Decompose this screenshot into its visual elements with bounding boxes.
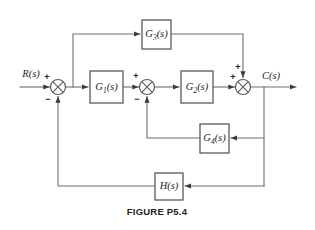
- figure-caption: FIGURE P5.4: [127, 206, 188, 217]
- block-g3[interactable]: G3(s): [142, 20, 171, 49]
- block-g2[interactable]: G2(s): [181, 71, 213, 103]
- output-signal-label: C(s): [262, 70, 281, 82]
- sum3-sign-plus-left: +: [230, 72, 235, 82]
- block-diagram: + − + − + + G1(s): [0, 0, 315, 230]
- block-h[interactable]: H(s): [155, 173, 183, 200]
- block-g4[interactable]: G4(s): [200, 124, 229, 153]
- figure-container: + − + − + + G1(s): [0, 0, 315, 230]
- sum1-sign-minus: −: [45, 94, 50, 104]
- block-g1[interactable]: G1(s): [90, 71, 123, 103]
- block-h-label: H(s): [159, 180, 179, 192]
- input-signal-label: R(s): [21, 68, 40, 80]
- wire-h-to-sum1: [58, 97, 155, 187]
- sum1-sign-plus: +: [44, 72, 49, 82]
- sum2-sign-plus: +: [133, 71, 138, 81]
- summing-junction-3: + +: [230, 62, 250, 95]
- sum3-sign-plus-top: +: [235, 62, 240, 72]
- summing-junction-1: + −: [44, 72, 65, 104]
- sum2-sign-minus: −: [134, 94, 139, 104]
